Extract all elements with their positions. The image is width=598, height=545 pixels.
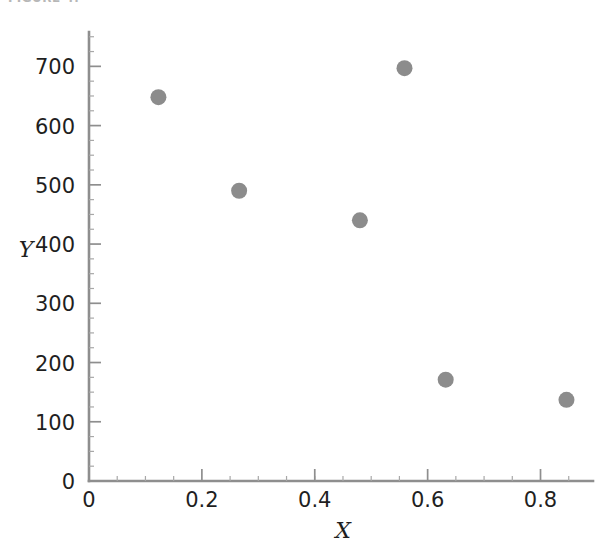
data-points-layer: [150, 60, 574, 408]
y-tick-label: 300: [35, 292, 75, 316]
y-tick-label: 700: [35, 55, 75, 79]
scatter-plot-figure: FIGURE 4. 0100200300400500600700 00.20.4…: [0, 0, 598, 545]
y-tick-label: 400: [35, 233, 75, 257]
y-tick-label: 500: [35, 174, 75, 198]
data-point: [438, 372, 454, 388]
x-axis: 00.20.40.60.8: [82, 469, 593, 512]
y-tick-label: 0: [62, 470, 75, 494]
y-tick-label: 600: [35, 115, 75, 139]
x-tick-label: 0: [82, 488, 95, 512]
data-point: [150, 89, 166, 105]
data-point: [396, 60, 412, 76]
y-tick-label: 100: [35, 411, 75, 435]
y-axis-title: Y: [19, 237, 36, 262]
x-tick-label: 0.8: [524, 488, 557, 512]
data-point: [558, 392, 574, 408]
y-axis: 0100200300400500600700: [35, 32, 101, 494]
data-point: [231, 183, 247, 199]
data-point: [352, 212, 368, 228]
x-tick-label: 0.6: [411, 488, 444, 512]
scatter-plot-canvas: 0100200300400500600700 00.20.40.60.8 X Y: [0, 0, 598, 545]
y-tick-label: 200: [35, 352, 75, 376]
x-axis-title: X: [333, 518, 352, 543]
x-tick-label: 0.4: [298, 488, 331, 512]
x-tick-label: 0.2: [185, 488, 218, 512]
